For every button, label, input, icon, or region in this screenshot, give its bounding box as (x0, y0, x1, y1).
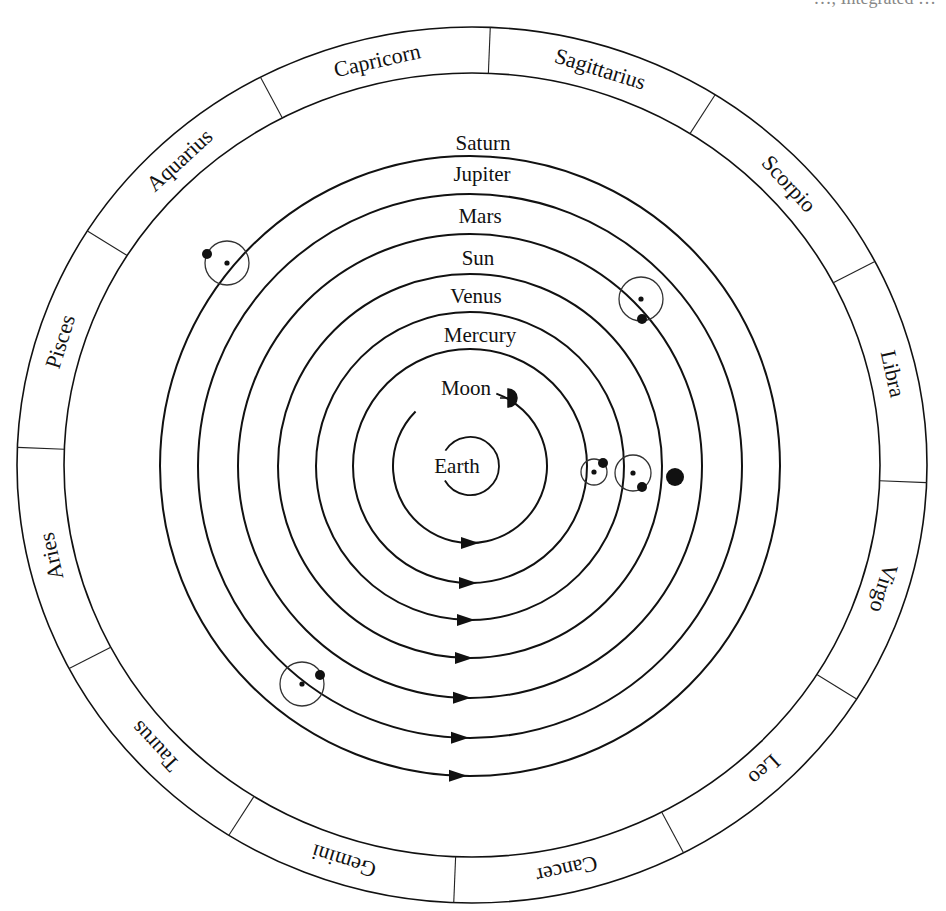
orbit-labels: MoonMercuryVenusSunMarsJupiterSaturnEart… (434, 131, 516, 478)
direction-arrow-saturn (449, 770, 467, 782)
venus-epicycle-center (630, 470, 635, 475)
orbit-label-jupiter: Jupiter (453, 162, 510, 186)
jupiter-epicycle-center (299, 681, 304, 686)
zodiac-label-cancer: Cancer (533, 851, 600, 889)
zodiac-label-sagittarius: Sagittarius (552, 43, 649, 95)
zodiac-label-libra: Libra (876, 348, 911, 400)
zodiac-divider (817, 674, 857, 699)
zodiac-label-aries: Aries (34, 530, 69, 582)
zodiac-divider (880, 481, 927, 483)
zodiac-divider (87, 231, 127, 256)
zodiac-divider (488, 27, 490, 73)
direction-arrow-mars (453, 692, 471, 704)
venus-planet (637, 482, 647, 492)
saturn-planet (202, 249, 212, 259)
geocentric-diagram: …, Integrated … CapricornSagittariusScor… (0, 0, 946, 911)
sun-body (666, 468, 684, 486)
zodiac-label-pisces: Pisces (40, 312, 80, 372)
zodiac-divider (662, 812, 684, 853)
zodiac-label-gemini: Gemini (308, 839, 378, 882)
page-header-fragment: …, Integrated … (814, 0, 936, 9)
direction-arrow-mercury (459, 577, 477, 589)
zodiac-label-virgo: Virgo (865, 561, 904, 616)
direction-arrow-moon (461, 537, 479, 549)
mars-epicycle-center (638, 296, 643, 301)
saturn-epicycle-center (224, 260, 229, 265)
direction-arrow-jupiter (451, 732, 469, 744)
orbit-label-venus: Venus (450, 284, 501, 308)
diagram-canvas: CapricornSagittariusScorpioLibraVirgoLeo… (0, 0, 946, 911)
earth-label: Earth (434, 454, 480, 478)
zodiac-divider (17, 447, 64, 449)
orbit-label-moon: Moon (441, 376, 492, 400)
mercury-epicycle-center (591, 469, 596, 474)
zodiac-divider (833, 261, 875, 282)
orbit-label-mars: Mars (458, 204, 501, 228)
zodiac-divider (690, 95, 715, 134)
zodiac-label-aquarius: Aquarius (141, 123, 217, 196)
zodiac-divider (229, 796, 254, 835)
zodiac-label-scorpio: Scorpio (757, 150, 822, 217)
mars-planet (637, 314, 647, 324)
orbit-label-mercury: Mercury (444, 323, 517, 347)
direction-arrow-venus (457, 614, 475, 626)
zodiac-divider (454, 857, 456, 903)
jupiter-planet (315, 670, 325, 680)
zodiac-label-leo: Leo (744, 749, 786, 791)
zodiac-label-taurus: Taurus (126, 716, 185, 777)
zodiac-divider (260, 77, 282, 118)
direction-arrow-sun (455, 652, 473, 664)
orbit-label-saturn: Saturn (456, 131, 511, 155)
orbit-label-sun: Sun (462, 246, 495, 270)
mercury-planet (598, 458, 608, 468)
zodiac-divider (69, 647, 111, 668)
